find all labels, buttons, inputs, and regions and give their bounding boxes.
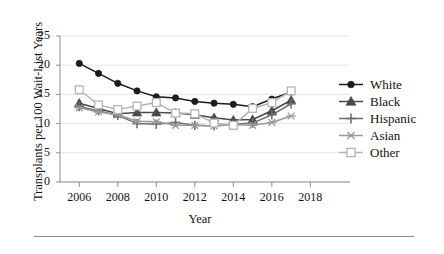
x-tick-label: 2006 [62,190,96,205]
asterisk-icon [336,127,366,144]
y-tick-label: 5 [28,145,50,160]
legend-label: Hispanic [366,110,416,127]
series-other [75,86,295,129]
plus-icon [336,110,366,127]
y-tick-label: 25 [28,28,50,43]
x-tick-label: 2008 [101,190,135,205]
filled-circle-icon [336,76,366,93]
legend-item-other[interactable]: Other [336,144,440,161]
x-tick-label: 2016 [255,190,289,205]
y-tick-label: 20 [28,57,50,72]
legend-label: Other [366,144,400,161]
chart-figure: Transplants per 100 Wait-List Years Year… [0,0,444,254]
x-axis-label: Year [140,212,260,227]
legend-label: Asian [366,127,400,144]
legend-item-black[interactable]: Black [336,93,440,110]
y-tick-label: 0 [28,174,50,189]
legend-item-white[interactable]: White [336,76,440,93]
chart-legend: WhiteBlackHispanicAsianOther [336,76,440,161]
legend-label: Black [366,93,400,110]
legend-item-hispanic[interactable]: Hispanic [336,110,440,127]
y-tick-label: 10 [28,116,50,131]
x-tick-label: 2014 [216,190,250,205]
filled-triangle-icon [336,93,366,110]
open-square-icon [336,144,366,161]
y-tick-label: 15 [28,86,50,101]
data-series-layer [75,60,296,130]
figure-bottom-rule [34,236,414,237]
legend-label: White [366,76,402,93]
x-tick-label: 2012 [178,190,212,205]
x-tick-label: 2010 [139,190,173,205]
x-tick-label: 2018 [293,190,327,205]
series-white [76,60,294,109]
legend-item-asian[interactable]: Asian [336,127,440,144]
series-asian [75,104,296,129]
